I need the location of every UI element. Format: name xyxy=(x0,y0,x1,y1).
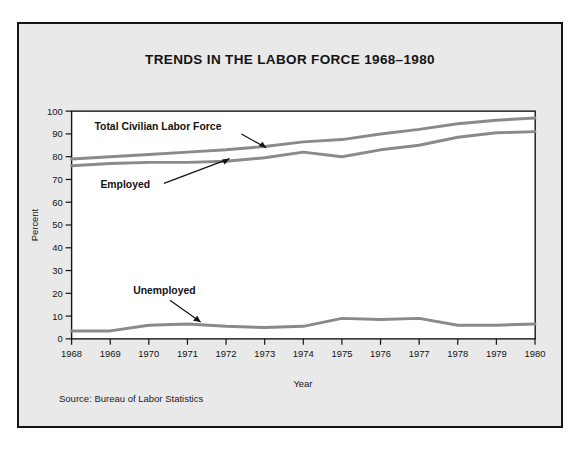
x-tick-1975: 1975 xyxy=(331,339,352,359)
y-tick-80: 80 xyxy=(52,151,71,162)
figure-root: TRENDS IN THE LABOR FORCE 1968–1980 0 10… xyxy=(0,0,580,453)
series-label-employed: Employed xyxy=(100,179,150,190)
y-tick-100: 100 xyxy=(47,106,72,117)
x-tick-label: 1970 xyxy=(138,348,159,359)
y-tick-30: 30 xyxy=(52,265,71,276)
x-tick-1970: 1970 xyxy=(138,339,159,359)
y-tick-50: 50 xyxy=(52,219,71,230)
x-tick-1973: 1973 xyxy=(254,339,275,359)
x-tick-label: 1969 xyxy=(100,348,121,359)
x-tick-label: 1977 xyxy=(409,348,430,359)
y-tick-20: 20 xyxy=(52,288,71,299)
x-tick-1968: 1968 xyxy=(61,339,82,359)
x-tick-1978: 1978 xyxy=(447,339,468,359)
x-tick-1976: 1976 xyxy=(370,339,391,359)
x-tick-label: 1974 xyxy=(293,348,314,359)
y-tick-label: 50 xyxy=(52,219,62,230)
series-label-total-civilian-labor-force: Total Civilian Labor Force xyxy=(94,121,221,132)
y-tick-label: 10 xyxy=(52,311,62,322)
y-axis-title: Percent xyxy=(29,208,40,241)
y-tick-label: 90 xyxy=(52,128,62,139)
x-tick-label: 1972 xyxy=(216,348,237,359)
x-tick-label: 1968 xyxy=(61,348,82,359)
y-tick-label: 80 xyxy=(52,151,62,162)
y-tick-label: 30 xyxy=(52,265,62,276)
x-tick-1980: 1980 xyxy=(525,339,546,359)
x-axis: 1968 1969 1970 1971 1972 xyxy=(61,339,545,359)
x-tick-1972: 1972 xyxy=(216,339,237,359)
y-tick-label: 100 xyxy=(47,106,63,117)
y-tick-label: 20 xyxy=(52,288,62,299)
y-tick-60: 60 xyxy=(52,197,71,208)
y-tick-70: 70 xyxy=(52,174,71,185)
y-tick-0: 0 xyxy=(57,333,71,344)
plot-panel xyxy=(72,111,536,339)
x-tick-label: 1979 xyxy=(486,348,507,359)
line-chart-plot: 0 10 20 30 40 xyxy=(19,24,561,426)
y-tick-40: 40 xyxy=(52,242,71,253)
x-tick-label: 1975 xyxy=(331,348,352,359)
y-axis: 0 10 20 30 40 xyxy=(47,106,72,345)
x-tick-1979: 1979 xyxy=(486,339,507,359)
series-label-unemployed: Unemployed xyxy=(133,285,195,296)
y-tick-10: 10 xyxy=(52,311,71,322)
x-tick-1974: 1974 xyxy=(293,339,314,359)
x-tick-label: 1971 xyxy=(177,348,198,359)
x-tick-1971: 1971 xyxy=(177,339,198,359)
y-tick-label: 60 xyxy=(52,197,62,208)
figure-frame: TRENDS IN THE LABOR FORCE 1968–1980 0 10… xyxy=(17,22,563,428)
x-tick-label: 1976 xyxy=(370,348,391,359)
y-tick-label: 70 xyxy=(52,174,62,185)
x-tick-1969: 1969 xyxy=(100,339,121,359)
x-tick-label: 1978 xyxy=(447,348,468,359)
y-tick-label: 40 xyxy=(52,242,62,253)
x-tick-label: 1973 xyxy=(254,348,275,359)
source-note: Source: Bureau of Labor Statistics xyxy=(59,393,203,404)
x-tick-label: 1980 xyxy=(525,348,546,359)
x-axis-title: Year xyxy=(293,378,312,389)
y-tick-90: 90 xyxy=(52,128,71,139)
y-tick-label: 0 xyxy=(57,333,62,344)
x-tick-1977: 1977 xyxy=(409,339,430,359)
